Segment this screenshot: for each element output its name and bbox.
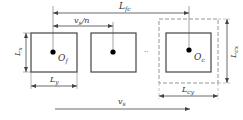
oc-label: Oc (194, 52, 205, 63)
fov-box-first: Of (31, 33, 77, 72)
ly-dimension: Ly (31, 72, 77, 89)
lfc-dimension: Lfc (53, 1, 189, 13)
vs-n-dimension: vs/n (53, 16, 113, 26)
center-dot-oc (186, 47, 191, 52)
fov-box-second (91, 33, 136, 72)
vs-n-label: vs/n (74, 16, 89, 26)
fov-box-camera: Oc (159, 19, 218, 83)
center-dot-2 (110, 49, 115, 54)
lx-label: Lx (13, 47, 23, 57)
fov-diagram: Lfc vs/n Of Lx Ly ·· Oc (0, 0, 243, 120)
lcy-label: Lcy (181, 85, 195, 96)
lx-dimension: Lx (13, 33, 31, 72)
ly-label: Ly (49, 75, 59, 86)
ellipsis: ·· (144, 48, 148, 56)
vs-arrow: vs (55, 97, 190, 109)
lcy-dimension: Lcy (159, 83, 218, 99)
of-label: Of (58, 53, 69, 65)
lcx-label: Lcx (229, 45, 239, 59)
lcx-dimension: Lcx (218, 19, 239, 83)
lfc-label: Lfc (118, 1, 131, 13)
center-dot-of (50, 49, 55, 54)
vs-label: vs (118, 97, 126, 107)
